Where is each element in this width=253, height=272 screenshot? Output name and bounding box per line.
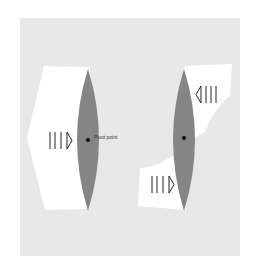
diagram-canvas	[0, 0, 253, 272]
pivot-point-label: Pivot point	[94, 134, 117, 140]
right-pivot-dot	[182, 136, 186, 140]
left-pivot-dot	[86, 138, 90, 142]
